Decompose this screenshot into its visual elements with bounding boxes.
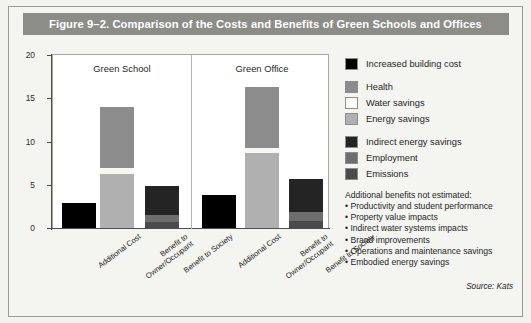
y-tick-label: 5 (30, 180, 35, 190)
y-tick-mark (47, 228, 51, 229)
bar-5[interactable] (245, 87, 279, 228)
y-tick: 20 (41, 55, 51, 56)
legend-item-label: Energy savings (366, 114, 430, 124)
legend-item[interactable]: Emissions (345, 166, 520, 182)
bar-segment-energy-savings (100, 174, 134, 228)
notes-block: Additional benefits not estimated: • Pro… (345, 190, 525, 268)
bar-segment-health (245, 87, 279, 148)
y-tick-label: 0 (30, 223, 35, 233)
source-credit: Source: Kats (345, 282, 525, 291)
legend-item[interactable]: Water savings (345, 95, 520, 111)
legend-swatch-icon (345, 113, 358, 125)
legend-item-label: Water savings (366, 98, 425, 108)
bar-1[interactable] (62, 203, 96, 228)
legend-item-label: Employment (366, 153, 418, 163)
bar-segment-indirect-energy-savings (145, 186, 179, 215)
page-title: Figure 9–2. Comparison of the Costs and … (23, 18, 482, 30)
legend-item[interactable]: Employment (345, 150, 520, 166)
bar-4[interactable] (202, 195, 236, 228)
note-item: • Embodied energy savings (345, 257, 525, 268)
bar-segment-health (100, 107, 134, 168)
y-tick-label: 20 (26, 50, 35, 60)
bar-segment-increased-building-cost (62, 203, 96, 228)
y-tick-mark (47, 185, 51, 186)
note-item: • Indirect water systems impacts (345, 223, 525, 234)
notes-list: • Productivity and student performance• … (345, 201, 525, 268)
figure-page: Figure 9–2. Comparison of the Costs and … (0, 0, 531, 323)
bar-segment-energy-savings (245, 153, 279, 228)
bar-segment-emissions (145, 222, 179, 228)
notes-heading: Additional benefits not estimated: (345, 190, 525, 200)
bar-segment-increased-building-cost (202, 195, 236, 228)
legend-item[interactable]: Increased building cost (345, 56, 520, 72)
note-item: • Operations and maintenance savings (345, 246, 525, 257)
y-tick: 5 (41, 185, 51, 186)
y-tick-label: 10 (26, 137, 35, 147)
y-tick: 15 (41, 98, 51, 99)
note-item: • Productivity and student performance (345, 201, 525, 212)
bar-container (52, 55, 329, 228)
legend-item-label: Health (366, 82, 393, 92)
figure-title-banner: Figure 9–2. Comparison of the Costs and … (23, 13, 509, 35)
legend-item[interactable]: Energy savings (345, 111, 520, 127)
legend-item-label: Emissions (366, 169, 408, 179)
legend-swatch-icon (345, 97, 358, 109)
legend-swatch-icon (345, 168, 358, 180)
y-tick: 0 (41, 228, 51, 229)
legend-swatch-icon (345, 152, 358, 164)
note-item: • Property value impacts (345, 212, 525, 223)
chart-legend: Increased building costHealthWater savin… (345, 56, 520, 182)
bar-6[interactable] (289, 179, 323, 228)
bar-segment-emissions (289, 221, 323, 228)
bar-2[interactable] (100, 107, 134, 228)
y-tick-mark (47, 142, 51, 143)
legend-item[interactable]: Indirect energy savings (345, 134, 520, 150)
bar-segment-employment (289, 212, 323, 221)
legend-item-label: Increased building cost (366, 59, 461, 69)
bar-segment-employment (145, 215, 179, 222)
y-tick-mark (47, 55, 51, 56)
legend-item-label: Indirect energy savings (366, 137, 462, 147)
legend-swatch-icon (345, 81, 358, 93)
bar-3[interactable] (145, 186, 179, 228)
legend-swatch-icon (345, 58, 358, 70)
bar-segment-indirect-energy-savings (289, 179, 323, 213)
y-tick-mark (47, 98, 51, 99)
legend-item[interactable]: Health (345, 79, 520, 95)
note-item: • Brand improvements (345, 235, 525, 246)
legend-swatch-icon (345, 136, 358, 148)
y-tick: 10 (41, 142, 51, 143)
y-tick-label: 15 (26, 93, 35, 103)
